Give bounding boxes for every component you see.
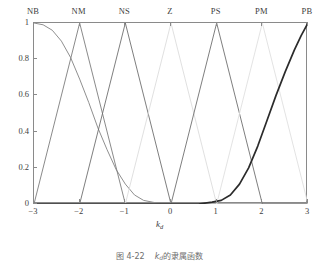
x-tick-1 bbox=[216, 199, 217, 203]
x-tick-label-2: 2 bbox=[259, 206, 263, 216]
top-tick-ns bbox=[124, 22, 125, 26]
x-tick--2 bbox=[79, 199, 80, 203]
y-tick-0 bbox=[33, 203, 37, 204]
curve-nm bbox=[34, 23, 308, 204]
membership-curves bbox=[34, 23, 308, 204]
top-tick-pm bbox=[261, 22, 262, 26]
top-label-nm: NM bbox=[72, 6, 86, 16]
x-tick-label--3: −3 bbox=[28, 206, 37, 216]
curve-nb bbox=[34, 23, 308, 204]
curve-pm bbox=[34, 23, 308, 204]
y-tick-label-0: 0 bbox=[7, 198, 29, 208]
figure-container: NBNMNSZPSPMPB −3−2−10123 00.20.40.60.81 … bbox=[0, 0, 319, 262]
y-axis-title: 隶属度 bbox=[0, 77, 35, 104]
x-axis-title: kd bbox=[0, 219, 319, 230]
x-tick-label-1: 1 bbox=[214, 206, 218, 216]
y-tick-0.2 bbox=[33, 167, 37, 168]
x-tick-3 bbox=[307, 199, 308, 203]
top-label-ps: PS bbox=[211, 6, 221, 16]
y-tick-0.8 bbox=[33, 58, 37, 59]
caption-text: 的隶属函数 bbox=[163, 252, 203, 261]
top-label-nb: NB bbox=[27, 6, 39, 16]
top-label-ns: NS bbox=[119, 6, 130, 16]
curve-ps bbox=[34, 23, 308, 204]
y-tick-label-1: 1 bbox=[7, 17, 29, 27]
curve-ns bbox=[34, 23, 308, 204]
top-tick-ps bbox=[216, 22, 217, 26]
top-label-pm: PM bbox=[255, 6, 268, 16]
y-tick-label-0.2: 0.2 bbox=[7, 162, 29, 172]
top-label-z: Z bbox=[167, 6, 172, 16]
curve-pb bbox=[34, 23, 308, 204]
y-tick-1 bbox=[33, 22, 37, 23]
x-tick--1 bbox=[124, 199, 125, 203]
top-tick-nm bbox=[79, 22, 80, 26]
top-tick-pb bbox=[307, 22, 308, 26]
x-tick-0 bbox=[170, 199, 171, 203]
top-tick-z bbox=[170, 22, 171, 26]
x-tick-2 bbox=[261, 199, 262, 203]
x-tick-label-0: 0 bbox=[168, 206, 172, 216]
y-tick-label-0.8: 0.8 bbox=[7, 53, 29, 63]
x-tick-label--1: −1 bbox=[120, 206, 129, 216]
y-tick-0.4 bbox=[33, 131, 37, 132]
x-tick-label--2: −2 bbox=[74, 206, 83, 216]
plot-area bbox=[33, 22, 307, 203]
top-label-pb: PB bbox=[302, 6, 313, 16]
caption-number: 图 4-22 bbox=[116, 252, 145, 261]
y-tick-label-0.4: 0.4 bbox=[7, 126, 29, 136]
x-axis-title-subscript: d bbox=[160, 223, 163, 230]
x-tick-label-3: 3 bbox=[305, 206, 309, 216]
figure-caption: 图 4-22kd的隶属函数 bbox=[0, 250, 319, 262]
curve-z bbox=[34, 23, 308, 204]
